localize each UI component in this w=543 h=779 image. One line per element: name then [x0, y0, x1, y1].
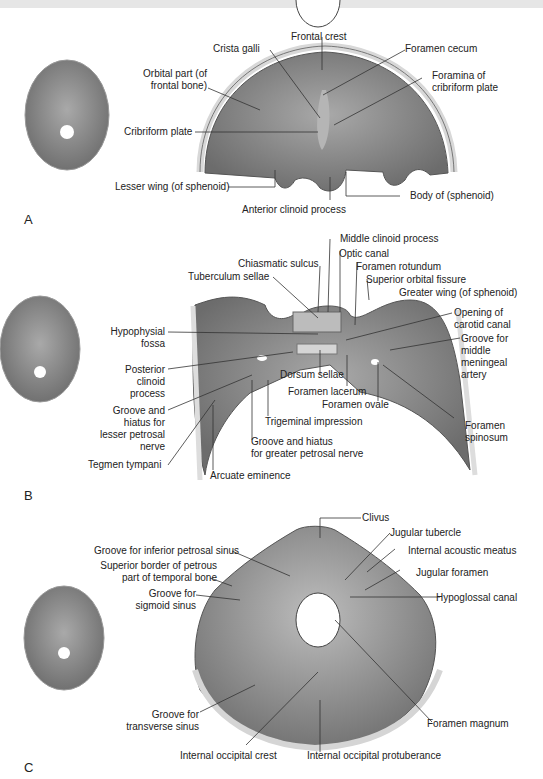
label-greater-wing: Greater wing (of sphenoid): [399, 287, 517, 299]
label-superior-border-petrous: Superior border of petrouspart of tempor…: [90, 560, 217, 584]
label-hypophysial-fossa: Hypophysialfossa: [100, 326, 165, 350]
label-foramen-lacerum: Foramen lacerum: [288, 386, 366, 398]
label-lesser-wing: Lesser wing (of sphenoid): [115, 181, 230, 193]
label-foramen-cecum: Foramen cecum: [405, 43, 477, 55]
label-greater-petrosal: Groove and hiatusfor greater petrosal ne…: [251, 436, 363, 460]
label-optic-canal: Optic canal: [339, 248, 389, 260]
panel-letter-b: B: [24, 488, 33, 503]
skull-thumbnail-a: [25, 60, 109, 170]
label-internal-occipital-crest: Internal occipital crest: [180, 750, 277, 762]
label-anterior-clinoid: Anterior clinoid process: [242, 204, 346, 216]
label-foramen-spinosum: Foramenspinosum: [465, 420, 508, 444]
label-jugular-foramen: Jugular foramen: [416, 567, 488, 579]
label-posterior-clinoid: Posteriorclinoidprocess: [100, 364, 165, 400]
label-groove-sigmoid: Groove forsigmoid sinus: [120, 588, 196, 612]
label-tegmen-tympani: Tegmen tympani: [88, 459, 161, 471]
panel-letter-a: A: [24, 212, 33, 227]
label-hypoglossal-canal: Hypoglossal canal: [436, 592, 517, 604]
label-groove-transverse: Groove fortransverse sinus: [110, 709, 199, 733]
label-opening-carotid-canal: Opening ofcarotid canal: [454, 307, 511, 331]
label-jugular-tubercle: Jugular tubercle: [390, 527, 461, 539]
label-foramen-magnum: Foramen magnum: [427, 718, 509, 730]
label-trigeminal-impression: Trigeminal impression: [265, 416, 362, 428]
label-clivus: Clivus: [362, 512, 389, 524]
label-body-sphenoid: Body of (sphenoid): [410, 190, 494, 202]
label-frontal-crest: Frontal crest: [291, 31, 347, 43]
label-lesser-petrosal: Groove andhiatus forlesser petrosalnerve: [70, 405, 165, 453]
label-groove-mma: Groove formiddlemeningealartery: [461, 333, 508, 381]
anterior-cranial-fossa: [200, 46, 454, 191]
label-groove-inferior-petrosal: Groove for inferior petrosal sinus: [94, 545, 239, 557]
label-middle-clinoid: Middle clinoid process: [340, 233, 438, 245]
label-internal-acoustic-meatus: Internal acoustic meatus: [408, 545, 516, 557]
label-foramina-cribriform: Foramina ofcribriform plate: [432, 70, 498, 94]
label-orbital-part: Orbital part (offrontal bone): [140, 68, 207, 92]
skull-thumbnail-c: [24, 586, 104, 690]
label-foramen-ovale: Foramen ovale: [322, 399, 389, 411]
label-superior-orbital-fissure: Superior orbital fissure: [366, 274, 466, 286]
diagram-artwork: [0, 0, 543, 779]
label-tuberculum-sellae: Tuberculum sellae: [188, 271, 269, 283]
panel-letter-c: C: [24, 760, 33, 775]
label-cribriform-plate: Cribriform plate: [124, 126, 192, 138]
label-internal-occipital-protuberance: Internal occipital protuberance: [307, 750, 441, 762]
label-chiasmatic-sulcus: Chiasmatic sulcus: [238, 258, 319, 270]
label-dorsum-sellae: Dorsum sellae: [280, 369, 344, 381]
skull-thumbnail-b: [0, 296, 80, 402]
label-foramen-rotundum: Foramen rotundum: [356, 261, 441, 273]
label-arcuate-eminence: Arcuate eminence: [210, 470, 291, 482]
label-crista-galli: Crista galli: [213, 43, 260, 55]
